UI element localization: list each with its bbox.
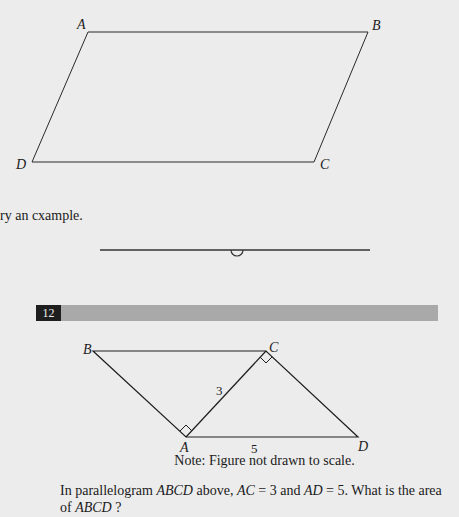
vertex-label-a-top: A [77, 18, 86, 32]
question-number: 12 [36, 305, 61, 321]
question-text: In parallelogram ABCD above, AC = 3 and … [60, 482, 450, 516]
parallelogram-figure-top [0, 0, 459, 517]
vertex-label-c-top: C [320, 158, 329, 172]
figure-note: Note: Figure not drawn to scale. [0, 453, 459, 469]
vertex-label-d-top: D [16, 158, 26, 172]
vertex-label-b-top: B [372, 19, 381, 33]
vertex-label-b: B [83, 343, 92, 357]
passage-snippet: ry an cxample. [0, 208, 83, 224]
question-header-bar: 12 [36, 305, 438, 321]
side-length-ac: 3 [216, 384, 223, 397]
vertex-label-d: D [358, 440, 368, 454]
vertex-label-c: C [269, 341, 278, 355]
